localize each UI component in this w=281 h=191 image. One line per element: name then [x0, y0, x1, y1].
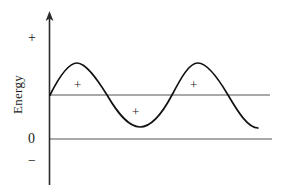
y-axis-positive-label: + [28, 31, 36, 45]
sign-marker: + [74, 78, 81, 91]
sign-marker: + [132, 105, 139, 118]
figure-canvas [0, 0, 281, 191]
y-axis-zero-label: 0 [28, 132, 35, 146]
y-axis-negative-label: − [28, 154, 36, 168]
sign-marker: + [190, 78, 197, 91]
y-axis-title: Energy [11, 71, 24, 119]
energy-diagram-figure: + 0 − Energy + + + [0, 0, 281, 191]
